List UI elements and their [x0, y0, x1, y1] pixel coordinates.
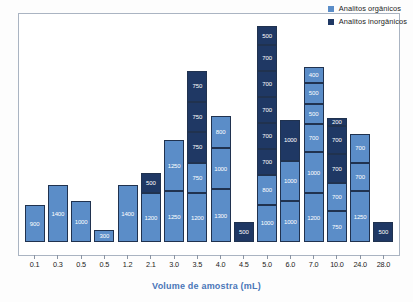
bar-column[interactable]: 500: [234, 14, 254, 242]
tick-mark-icon: [313, 255, 314, 259]
legend-swatch-icon: [328, 6, 334, 12]
bar-segment[interactable]: 200: [327, 118, 347, 126]
tick-mark-icon: [267, 255, 268, 259]
bar-column[interactable]: 1000: [71, 14, 91, 242]
x-axis-tick: [94, 255, 114, 259]
stacked-bar[interactable]: 1000: [71, 201, 91, 242]
x-axis-tick: [164, 255, 184, 259]
stacked-bar[interactable]: 40050050070010001200: [304, 67, 324, 242]
bar-segment[interactable]: 1000: [304, 152, 324, 193]
bar-segment[interactable]: 500: [234, 222, 254, 242]
bar-segment[interactable]: 700: [350, 134, 370, 163]
legend-item-inorganicos[interactable]: Analitos inorgânicos: [328, 17, 407, 26]
bar-segment-value: 1250: [168, 214, 181, 220]
tick-mark-icon: [81, 255, 82, 259]
tick-mark-icon: [290, 255, 291, 259]
bar-column[interactable]: 300: [94, 14, 114, 242]
bar-segment-value: 700: [262, 133, 272, 139]
bar-segment[interactable]: 750: [187, 71, 207, 102]
bar-segment[interactable]: 1200: [187, 193, 207, 242]
stacked-bar[interactable]: 12501250: [164, 140, 184, 242]
bar-segment[interactable]: 1000: [280, 161, 300, 202]
bar-column[interactable]: 100010001000: [280, 14, 300, 242]
stacked-bar[interactable]: 5007007007007007008001000: [257, 26, 277, 242]
bar-column[interactable]: 7007001250: [350, 14, 370, 242]
stacked-bar[interactable]: 1400: [48, 185, 68, 242]
bar-column[interactable]: 200700700700750: [327, 14, 347, 242]
tick-mark-icon: [150, 255, 151, 259]
bar-segment[interactable]: 1200: [304, 193, 324, 242]
legend-item-organicos[interactable]: Analitos orgânicos: [328, 4, 407, 13]
bar-segment-value: 1000: [214, 166, 227, 172]
bar-column[interactable]: 7507507507501200: [187, 14, 207, 242]
bar-segment[interactable]: 750: [187, 163, 207, 194]
tick-mark-icon: [383, 255, 384, 259]
bar-segment[interactable]: 500: [141, 173, 161, 193]
bar-column[interactable]: 80010001300: [211, 14, 231, 242]
bar-segment-value: 1400: [51, 211, 64, 217]
bar-segment[interactable]: 700: [257, 97, 277, 123]
bar-segment[interactable]: 700: [257, 123, 277, 149]
bar-segment[interactable]: 300: [94, 230, 114, 242]
bar-segment[interactable]: 1250: [164, 191, 184, 242]
stacked-bar[interactable]: 7007001250: [350, 134, 370, 242]
bar-column[interactable]: 1400: [48, 14, 68, 242]
bar-segment[interactable]: 1200: [141, 193, 161, 242]
stacked-bar[interactable]: 80010001300: [211, 116, 231, 242]
stacked-bar[interactable]: 300: [94, 230, 114, 242]
bar-column[interactable]: 500: [373, 14, 393, 242]
bar-segment[interactable]: 700: [350, 163, 370, 192]
bar-segment[interactable]: 1400: [48, 185, 68, 242]
bar-segment[interactable]: 500: [304, 104, 324, 124]
bar-column[interactable]: 5007007007007007008001000: [257, 14, 277, 242]
bar-segment[interactable]: 500: [257, 26, 277, 45]
bar-segment[interactable]: 700: [327, 154, 347, 183]
x-axis-tick-labels: 0.10.30.50.51.22.13.03.54.04.55.06.07.01…: [19, 260, 399, 274]
bar-column[interactable]: 40050050070010001200: [304, 14, 324, 242]
bar-segment-value: 500: [239, 229, 249, 235]
x-axis-label: 0.3: [48, 260, 68, 274]
stacked-bar[interactable]: 500: [373, 222, 393, 242]
x-axis-tick: [141, 255, 161, 259]
stacked-bar[interactable]: 900: [25, 205, 45, 242]
bar-segment[interactable]: 1400: [118, 185, 138, 242]
bar-segment[interactable]: 1000: [211, 148, 231, 189]
bar-segment[interactable]: 750: [187, 132, 207, 163]
bar-segment[interactable]: 700: [257, 45, 277, 71]
bar-column[interactable]: 900: [25, 14, 45, 242]
bar-segment[interactable]: 500: [304, 83, 324, 103]
bar-segment-value: 700: [332, 137, 342, 143]
bar-segment[interactable]: 800: [211, 116, 231, 149]
stacked-bar[interactable]: 100010001000: [280, 120, 300, 242]
bar-segment[interactable]: 700: [304, 124, 324, 153]
bar-segment[interactable]: 400: [304, 67, 324, 83]
stacked-bar[interactable]: 5001200: [141, 173, 161, 242]
bar-segment[interactable]: 700: [327, 126, 347, 155]
bar-segment[interactable]: 1300: [211, 189, 231, 242]
bar-segment[interactable]: 700: [327, 183, 347, 212]
stacked-bar[interactable]: 7507507507501200: [187, 71, 207, 242]
bar-column[interactable]: 5001200: [141, 14, 161, 242]
bar-column[interactable]: 1400: [118, 14, 138, 242]
bar-segment[interactable]: 1000: [257, 205, 277, 242]
bar-segment[interactable]: 750: [187, 102, 207, 133]
bar-segment-value: 750: [193, 83, 203, 89]
bar-segment[interactable]: 700: [257, 149, 277, 175]
bar-segment[interactable]: 750: [327, 211, 347, 242]
legend-item-label: Analitos orgânicos: [339, 4, 401, 13]
bar-segment[interactable]: 1000: [280, 201, 300, 242]
stacked-bar[interactable]: 500: [234, 222, 254, 242]
bar-segment[interactable]: 500: [373, 222, 393, 242]
bar-segment[interactable]: 1250: [164, 140, 184, 191]
bar-segment[interactable]: 700: [257, 71, 277, 97]
x-axis-label: 10.0: [327, 260, 347, 274]
bar-segment[interactable]: 1250: [350, 191, 370, 242]
bar-column[interactable]: 12501250: [164, 14, 184, 242]
bar-segment[interactable]: 1000: [280, 120, 300, 161]
bar-segment[interactable]: 800: [257, 175, 277, 205]
stacked-bar[interactable]: 1400: [118, 185, 138, 242]
bar-segment[interactable]: 1000: [71, 201, 91, 242]
stacked-bar[interactable]: 200700700700750: [327, 118, 347, 242]
bar-segment-value: 1000: [284, 137, 297, 143]
bar-segment[interactable]: 900: [25, 205, 45, 242]
